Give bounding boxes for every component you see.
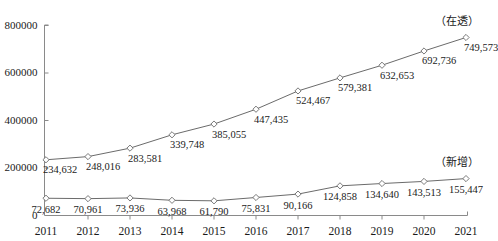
data-label-outstanding: 749,573 bbox=[464, 43, 498, 54]
data-label-outstanding: 385,055 bbox=[212, 130, 246, 141]
x-axis-tick-label: 2014 bbox=[151, 226, 193, 238]
data-label-new: 155,447 bbox=[445, 185, 487, 196]
x-axis-tick-label: 2021 bbox=[445, 226, 487, 238]
data-label-new: 61,790 bbox=[193, 207, 235, 218]
x-axis-tick-label: 2015 bbox=[193, 226, 235, 238]
data-label-new: 63,968 bbox=[151, 207, 193, 218]
x-axis-tick-label: 2020 bbox=[403, 226, 445, 238]
data-label-outstanding: 447,435 bbox=[254, 115, 288, 126]
data-label-outstanding: 632,653 bbox=[380, 71, 414, 82]
x-axis-tick-label: 2017 bbox=[277, 226, 319, 238]
x-axis-tick-label: 2012 bbox=[67, 226, 109, 238]
data-label-outstanding: 524,467 bbox=[296, 96, 330, 107]
data-label-outstanding: 692,736 bbox=[422, 56, 456, 67]
data-label-new: 75,831 bbox=[235, 204, 277, 215]
data-label-new: 90,166 bbox=[277, 201, 319, 212]
x-axis-tick-label: 2011 bbox=[25, 226, 67, 238]
data-label-new: 72,682 bbox=[25, 205, 67, 216]
series-label-new: （新增） bbox=[0, 157, 479, 168]
data-label-new: 143,513 bbox=[403, 188, 445, 199]
x-axis-tick-label: 2016 bbox=[235, 226, 277, 238]
x-axis-tick-label: 2018 bbox=[319, 226, 361, 238]
y-axis-tick-label: 400000 bbox=[0, 115, 38, 126]
y-axis-tick-label: 600000 bbox=[0, 67, 38, 78]
series-label-outstanding: （在透） bbox=[0, 16, 479, 27]
x-axis-tick-label: 2019 bbox=[361, 226, 403, 238]
x-axis-tick-label: 2013 bbox=[109, 226, 151, 238]
data-label-new: 73,936 bbox=[109, 204, 151, 215]
data-label-new: 70,961 bbox=[67, 205, 109, 216]
data-label-new: 124,858 bbox=[319, 192, 361, 203]
data-label-outstanding: 339,748 bbox=[170, 140, 204, 151]
data-label-new: 134,640 bbox=[361, 190, 403, 201]
data-label-outstanding: 579,381 bbox=[338, 83, 372, 94]
